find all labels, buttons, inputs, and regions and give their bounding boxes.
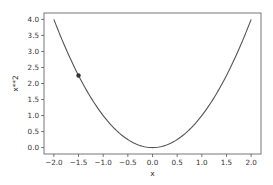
chart-figure: −2.0−1.5−1.0−0.50.00.51.01.52.0 0.00.51.… — [0, 0, 273, 185]
x-tick-label: 0.0 — [147, 158, 159, 167]
y-tick-label: 0.5 — [28, 127, 39, 136]
x-axis-ticks: −2.0−1.5−1.0−0.50.00.51.01.52.0 — [45, 154, 257, 167]
x-axis-label: x — [150, 169, 155, 178]
y-tick-label: 4.0 — [28, 15, 40, 24]
y-tick-label: 0.0 — [28, 143, 40, 152]
x-tick-label: −1.5 — [70, 158, 87, 167]
y-tick-label: 1.0 — [28, 111, 40, 120]
axes-frame — [44, 13, 261, 154]
y-tick-label: 3.5 — [28, 31, 39, 40]
y-axis-label: x**2 — [11, 75, 20, 92]
x-tick-label: −2.0 — [45, 158, 63, 167]
curve-line — [54, 19, 251, 147]
y-tick-label: 3.0 — [28, 47, 40, 56]
data-point-marker — [76, 73, 80, 77]
y-tick-label: 1.5 — [28, 95, 39, 104]
x-tick-label: −1.0 — [94, 158, 112, 167]
plot-area — [44, 13, 261, 154]
x-tick-label: 1.5 — [221, 158, 232, 167]
y-tick-label: 2.0 — [28, 79, 40, 88]
x-tick-label: 1.0 — [196, 158, 208, 167]
x-tick-label: −0.5 — [119, 158, 136, 167]
y-tick-label: 2.5 — [28, 63, 39, 72]
y-axis-ticks: 0.00.51.01.52.02.53.03.54.0 — [28, 15, 44, 152]
x-tick-label: 0.5 — [171, 158, 182, 167]
x-tick-label: 2.0 — [245, 158, 257, 167]
